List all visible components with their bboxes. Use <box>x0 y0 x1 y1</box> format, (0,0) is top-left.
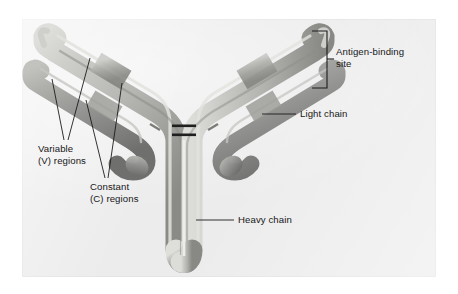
variable-regions-label: Variable (V) regions <box>38 143 86 166</box>
light-chain-label: Light chain <box>300 108 348 120</box>
constant-regions-label: Constant (C) regions <box>90 181 139 204</box>
antibody-structure-figure: Antigen-binding site Light chain Heavy c… <box>0 0 458 294</box>
heavy-chain-left <box>41 30 181 250</box>
heavy-chain-label: Heavy chain <box>238 214 292 226</box>
antigen-binding-site-label: Antigen-binding site <box>336 46 404 69</box>
